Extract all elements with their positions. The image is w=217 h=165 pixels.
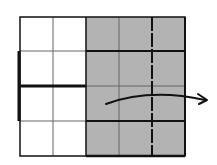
grid-diagram [0, 0, 217, 165]
